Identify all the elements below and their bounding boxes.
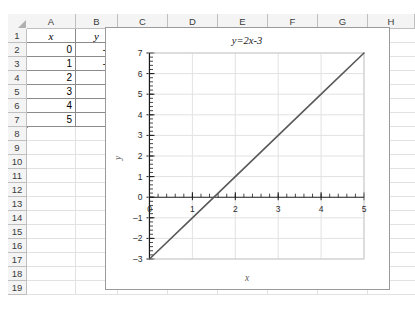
row-header-9[interactable]: 9 xyxy=(8,141,27,155)
row-header-8[interactable]: 8 xyxy=(8,127,27,141)
spreadsheet-canvas: A B C D E F G H 1 2 3 4 5 6 7 8 9 10 11 … xyxy=(0,0,415,313)
x-tick-label: 5 xyxy=(362,204,367,214)
sheet-gridline-h xyxy=(27,294,415,295)
y-axis-tick-labels: 76543210–1–2–3 xyxy=(133,48,143,264)
y-tick-label: 7 xyxy=(138,48,143,58)
row-header-10[interactable]: 10 xyxy=(8,155,27,169)
row-header-15[interactable]: 15 xyxy=(8,225,27,239)
row-header-6[interactable]: 6 xyxy=(8,99,27,113)
cell-a3[interactable]: 1 xyxy=(27,57,76,71)
row-header-5[interactable]: 5 xyxy=(8,85,27,99)
row-header-14[interactable]: 14 xyxy=(8,211,27,225)
cell-a7[interactable]: 5 xyxy=(27,113,76,127)
column-header-a[interactable]: A xyxy=(27,14,76,29)
row-header-17[interactable]: 17 xyxy=(8,253,27,267)
row-header-12[interactable]: 12 xyxy=(8,183,27,197)
cell-a1[interactable]: x xyxy=(27,29,76,43)
select-all-corner-icon[interactable] xyxy=(8,14,28,30)
x-tick-label: 2 xyxy=(233,204,238,214)
cell-a6[interactable]: 4 xyxy=(27,99,76,113)
y-tick-label: 3 xyxy=(138,130,143,140)
y-tick-label: 4 xyxy=(138,110,143,120)
y-tick-label: –2 xyxy=(133,233,143,243)
row-header-18[interactable]: 18 xyxy=(8,267,27,281)
x-tick-label: 3 xyxy=(276,204,281,214)
row-header-4[interactable]: 4 xyxy=(8,71,27,85)
row-header-11[interactable]: 11 xyxy=(8,169,27,183)
x-tick-label: 1 xyxy=(190,204,195,214)
row-header-3[interactable]: 3 xyxy=(8,57,27,71)
y-tick-label: 1 xyxy=(138,172,143,182)
y-tick-label: 2 xyxy=(138,151,143,161)
x-tick-label: 0 xyxy=(147,204,152,214)
y-tick-label: 5 xyxy=(138,89,143,99)
x-axis-title: x xyxy=(244,273,250,283)
cell-a2[interactable]: 0 xyxy=(27,43,76,57)
corner-triangle-icon xyxy=(18,20,26,28)
x-tick-label: 4 xyxy=(319,204,324,214)
cell-a4[interactable]: 2 xyxy=(27,71,76,85)
y-axis-title: y xyxy=(113,155,123,161)
row-header-16[interactable]: 16 xyxy=(8,239,27,253)
row-header-19[interactable]: 19 xyxy=(8,281,27,295)
row-header-1[interactable]: 1 xyxy=(8,29,27,43)
y-tick-label: 6 xyxy=(138,69,143,79)
y-tick-label: 0 xyxy=(138,192,143,202)
chart-svg: y=2x-3 76543210–1–2–3 012345 x y xyxy=(106,28,389,289)
y-tick-label: –3 xyxy=(133,254,143,264)
row-header-2[interactable]: 2 xyxy=(8,43,27,57)
row-header-13[interactable]: 13 xyxy=(8,197,27,211)
chart-title: y=2x-3 xyxy=(231,35,262,46)
y-tick-label: –1 xyxy=(133,213,143,223)
cell-a5[interactable]: 3 xyxy=(27,85,76,99)
row-header-7[interactable]: 7 xyxy=(8,113,27,127)
embedded-chart[interactable]: y=2x-3 76543210–1–2–3 012345 x y xyxy=(105,27,390,290)
